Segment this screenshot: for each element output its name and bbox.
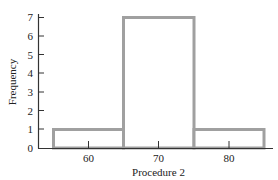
y-tick-label-7: 7: [28, 11, 34, 23]
x-tick-labels: 60 70 80: [83, 152, 235, 164]
y-axis-title: Frequency: [6, 58, 18, 105]
y-tick-label-0: 0: [28, 142, 34, 154]
y-tick-label-3: 3: [28, 86, 34, 98]
y-ticks: [39, 18, 45, 130]
x-tick-label-60: 60: [83, 152, 95, 164]
y-tick-labels: 7 6 5 4 3 2 1 0: [28, 11, 34, 154]
x-axis-title: Procedure 2: [132, 166, 185, 178]
y-tick-label-2: 2: [28, 105, 34, 117]
x-tick-label-80: 80: [224, 152, 236, 164]
y-tick-label-6: 6: [28, 30, 34, 42]
histogram-bar-70: [124, 18, 195, 149]
x-tick-label-70: 70: [153, 152, 165, 164]
bars-group: [54, 18, 265, 149]
histogram-chart: 7 6 5 4 3 2 1 0 60 70 80 Procedure 2 Fre…: [0, 0, 278, 180]
y-tick-label-4: 4: [28, 67, 34, 79]
y-tick-label-5: 5: [28, 49, 34, 61]
y-tick-label-1: 1: [28, 123, 34, 135]
